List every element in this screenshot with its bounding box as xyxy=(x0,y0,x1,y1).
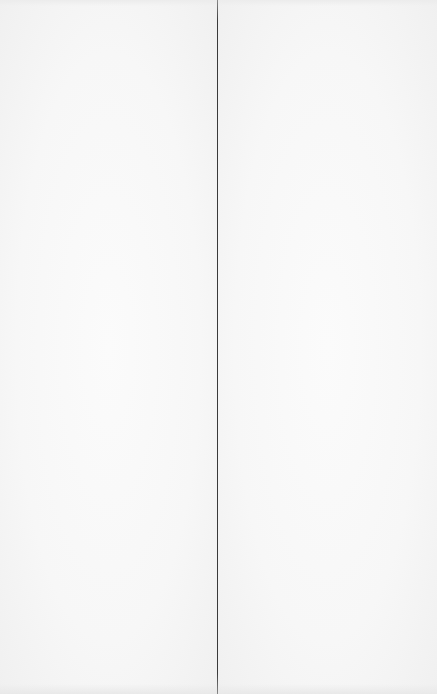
left-page xyxy=(0,0,217,694)
book-spread xyxy=(0,0,437,694)
right-page xyxy=(218,0,437,694)
